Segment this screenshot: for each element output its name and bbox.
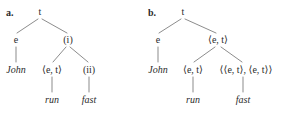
node-right-daughter: (i) [63, 35, 72, 45]
node-fast-type: (ii) [83, 65, 95, 75]
node-right-daughter: ⟨e, t⟩ [208, 35, 228, 45]
syntax-tree-figure: a. te(i)John⟨e, t⟩(ii)runfast b. te⟨e, t… [0, 0, 284, 122]
tree-a-edges [0, 0, 142, 122]
branch-root-to-e [159, 19, 181, 33]
node-fast-type: ⟨⟨e, t⟩, ⟨e, t⟩⟩ [220, 65, 273, 75]
node-leaf-john: John [148, 65, 167, 75]
node-run-type: ⟨e, t⟩ [42, 65, 62, 75]
branch-i-to-run-type [53, 47, 66, 62]
node-leaf-john: John [6, 65, 25, 75]
tree-b-edges [142, 0, 284, 122]
branch-root-to-et [185, 19, 216, 33]
node-left-daughter: e [14, 35, 18, 45]
node-left-daughter: e [156, 35, 160, 45]
tree-b: b. te⟨e, t⟩John⟨e, t⟩⟨⟨e, t⟩, ⟨e, t⟩⟩run… [142, 0, 284, 122]
node-root: t [39, 7, 42, 17]
node-root: t [182, 7, 185, 17]
panel-label-a: a. [6, 8, 14, 18]
node-leaf-fast: fast [236, 95, 250, 105]
branch-et-to-fast-type [221, 47, 242, 62]
panel-label-b: b. [148, 8, 156, 18]
branch-root-to-e [17, 19, 38, 33]
branch-root-to-i [42, 19, 67, 33]
branch-et-to-run-type [194, 47, 215, 62]
node-leaf-run: run [186, 95, 200, 105]
node-leaf-fast: fast [82, 95, 96, 105]
node-leaf-run: run [45, 95, 59, 105]
tree-a: a. te(i)John⟨e, t⟩(ii)runfast [0, 0, 142, 122]
branch-i-to-fast-type [70, 47, 88, 62]
node-run-type: ⟨e, t⟩ [183, 65, 203, 75]
